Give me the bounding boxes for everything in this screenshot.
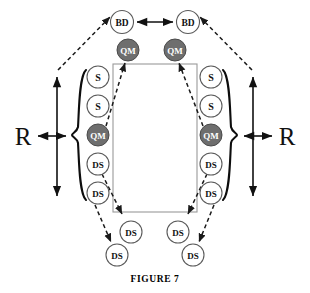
dash-ds-right-to-ds-out <box>199 205 214 242</box>
node-ds-left-2: DS <box>87 182 109 204</box>
node-qm-right: QM <box>200 124 222 146</box>
node-bd-right: BD <box>177 11 200 34</box>
r-left-label: R <box>15 123 32 150</box>
dash-qm-left-to-qm-top <box>106 63 125 126</box>
node-s-right-1: S <box>200 66 222 88</box>
node-ds-right-2: DS <box>200 182 222 204</box>
node-label-s-right-1: S <box>208 72 214 83</box>
node-label-ds-bottom-in-left: DS <box>125 228 137 238</box>
node-label-ds-left-2: DS <box>92 189 104 199</box>
solid-arrow-layer <box>38 22 272 196</box>
brace-left <box>72 70 86 200</box>
node-label-qm-left: QM <box>90 131 106 141</box>
center-region-box <box>113 64 197 212</box>
dash-r-left-to-bd <box>58 17 110 70</box>
node-ds-bottom-in-right: DS <box>167 221 189 243</box>
dash-ds-left-to-ds-out <box>95 205 111 242</box>
node-ds-bottom-out-right: DS <box>182 244 204 266</box>
node-label-qm-right: QM <box>203 131 219 141</box>
node-s-left-2: S <box>87 95 109 117</box>
r-right-label: R <box>279 123 296 150</box>
node-qm-left: QM <box>87 124 109 146</box>
node-label-ds-left-1: DS <box>92 160 104 170</box>
node-label-s-right-2: S <box>208 101 214 112</box>
node-ds-left-1: DS <box>87 153 109 175</box>
figure-container: RR BDBDQMQMSSQMDSDSSSQMDSDSDSDSDSDS FIGU… <box>0 0 310 293</box>
node-ds-bottom-out-left: DS <box>106 244 128 266</box>
node-label-ds-right-2: DS <box>205 189 217 199</box>
diagram-canvas: RR BDBDQMQMSSQMDSDSSSQMDSDSDSDSDSDS FIGU… <box>0 0 310 293</box>
node-layer: BDBDQMQMSSQMDSDSSSQMDSDSDSDSDSDS <box>87 11 222 267</box>
node-label-bd-left: BD <box>115 18 128 28</box>
dashed-arrow-layer <box>58 17 252 242</box>
node-qm-top-left: QM <box>117 39 139 61</box>
dash-r-right-to-bd <box>200 17 252 70</box>
node-s-right-2: S <box>200 95 222 117</box>
node-label-ds-bottom-out-right: DS <box>187 251 199 261</box>
node-bd-left: BD <box>111 11 134 34</box>
node-label-ds-right-1: DS <box>205 160 217 170</box>
node-label-s-left-1: S <box>95 72 101 83</box>
node-label-ds-bottom-in-right: DS <box>172 228 184 238</box>
node-label-qm-top-right: QM <box>167 46 183 56</box>
center-box-layer <box>113 64 197 212</box>
node-ds-right-1: DS <box>200 153 222 175</box>
node-s-left-1: S <box>87 66 109 88</box>
node-ds-bottom-in-left: DS <box>120 221 142 243</box>
brace-right <box>223 70 237 200</box>
node-label-s-left-2: S <box>95 101 101 112</box>
figure-caption: FIGURE 7 <box>131 274 180 284</box>
node-label-bd-right: BD <box>181 18 194 28</box>
node-label-ds-bottom-out-left: DS <box>111 251 123 261</box>
node-qm-top-right: QM <box>164 39 186 61</box>
node-label-qm-top-left: QM <box>120 46 136 56</box>
dash-qm-right-to-qm-top <box>179 63 203 126</box>
